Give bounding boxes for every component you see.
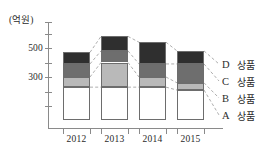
y-axis-label-300: 300 xyxy=(28,72,43,82)
bar-2012 xyxy=(63,22,90,128)
legend-key-D: D xyxy=(222,59,233,70)
y-axis-label-500-box: 500 xyxy=(0,43,43,54)
bar-segment-2013-D xyxy=(101,36,128,51)
legend-item-C: C상품 xyxy=(222,73,255,90)
connector-D-2013-2014 xyxy=(128,36,139,42)
legend-label-A: 상품 xyxy=(237,108,255,123)
legend-label-B: 상품 xyxy=(237,91,255,106)
y-axis-tick-600 xyxy=(45,34,52,35)
y-axis-tick-100 xyxy=(45,106,52,107)
x-axis-line xyxy=(48,128,223,129)
bar-segment-2013-A xyxy=(101,87,128,120)
connector-D-to-legend xyxy=(204,51,219,64)
connector-D-2012-2013 xyxy=(90,36,101,52)
y-axis-line xyxy=(48,22,49,129)
bar-2014 xyxy=(139,22,166,128)
legend: D상품C상품B상품A상품 xyxy=(222,56,255,124)
connector-B-to-legend xyxy=(204,83,219,98)
connector-B-2012-2013 xyxy=(90,63,101,78)
connector-C-2012-2013 xyxy=(90,51,101,64)
legend-label-C: 상품 xyxy=(237,74,255,89)
bar-segment-2015-B xyxy=(177,83,204,90)
bar-segment-2012-D xyxy=(63,52,90,64)
legend-item-A: A상품 xyxy=(222,107,255,124)
y-axis-label-300-box: 300 xyxy=(0,72,43,83)
bar-segment-2012-A xyxy=(63,87,90,120)
bar-segment-2015-D xyxy=(177,51,204,64)
bar-segment-2012-B xyxy=(63,77,90,87)
connector-A-2014-2015 xyxy=(166,87,177,90)
connector-B-2014-2015 xyxy=(166,77,177,83)
bar-2013 xyxy=(101,22,128,128)
y-axis-top-tick xyxy=(45,22,52,23)
x-axis-label-2015: 2015 xyxy=(171,134,211,144)
connector-C-2013-2014 xyxy=(128,51,139,64)
y-axis-label-500: 500 xyxy=(28,43,43,53)
stacked-bar-chart: (억원) 500 300 2012201320142015 D상품C상품B상품A… xyxy=(0,0,266,155)
bar-segment-2013-B xyxy=(101,63,128,88)
legend-item-B: B상품 xyxy=(222,90,255,107)
y-axis-tick-500 xyxy=(45,48,52,49)
y-axis-tick-200 xyxy=(45,92,52,93)
x-axis-label-2012: 2012 xyxy=(57,134,97,144)
connector-C-to-legend xyxy=(204,64,219,81)
legend-key-A: A xyxy=(222,110,233,121)
legend-item-D: D상품 xyxy=(222,56,255,73)
legend-key-C: C xyxy=(222,76,233,87)
bar-segment-2014-D xyxy=(139,42,166,64)
y-axis-tick-400 xyxy=(45,63,52,64)
bar-segment-2015-C xyxy=(177,64,204,83)
legend-label-D: 상품 xyxy=(237,57,255,72)
y-axis-unit-label: (억원) xyxy=(9,12,33,26)
x-axis-label-2013: 2013 xyxy=(95,134,135,144)
x-axis-label-2014: 2014 xyxy=(133,134,173,144)
bar-segment-2014-B xyxy=(139,77,166,87)
bar-segment-2013-C xyxy=(101,51,128,63)
bar-2015 xyxy=(177,22,204,128)
y-axis-tick-300 xyxy=(45,77,52,78)
connector-B-2013-2014 xyxy=(128,63,139,78)
bar-segment-2012-C xyxy=(63,64,90,77)
bar-segment-2015-A xyxy=(177,90,204,120)
bar-segment-2014-A xyxy=(139,87,166,120)
connector-D-2014-2015 xyxy=(166,42,177,51)
connector-A-to-legend xyxy=(204,90,219,115)
legend-key-B: B xyxy=(222,93,233,104)
bar-segment-2014-C xyxy=(139,64,166,77)
